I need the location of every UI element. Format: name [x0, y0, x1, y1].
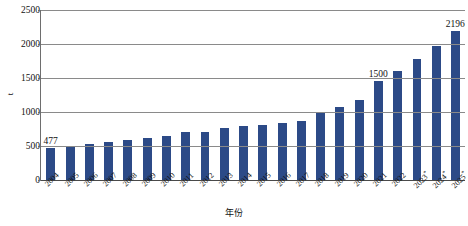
y-axis-tick-label: 2500 — [6, 5, 40, 15]
y-axis-tick-label: 0 — [6, 175, 40, 185]
bar-chart: t 05001000150020002500 47715002196 20042… — [0, 0, 468, 226]
bar[interactable] — [374, 81, 383, 180]
y-axis-tickmark — [38, 146, 41, 147]
y-axis-tick-label: 500 — [6, 141, 40, 151]
bar[interactable] — [335, 107, 344, 180]
y-axis-tick-label: 2000 — [6, 39, 40, 49]
gridline — [41, 10, 465, 11]
bar-value-label: 477 — [38, 136, 64, 146]
bar-series: 47715002196 — [41, 10, 465, 180]
y-axis-tick-labels: 05001000150020002500 — [0, 0, 40, 226]
gridline — [41, 112, 465, 113]
plot-area: 47715002196 — [40, 10, 464, 180]
y-axis-tickmark — [38, 10, 41, 11]
y-axis-tickmark — [38, 112, 41, 113]
bar[interactable] — [432, 46, 441, 180]
bar[interactable] — [393, 71, 402, 180]
y-axis-tickmark — [38, 44, 41, 45]
gridline — [41, 78, 465, 79]
gridline — [41, 44, 465, 45]
x-axis-title: 年份 — [0, 206, 468, 219]
y-axis-tick-label: 1500 — [6, 73, 40, 83]
bar-value-label: 2196 — [442, 19, 468, 29]
y-axis-tickmark — [38, 180, 41, 181]
bar[interactable] — [451, 31, 460, 180]
gridline — [41, 146, 465, 147]
y-axis-tick-label: 1000 — [6, 107, 40, 117]
y-axis-tickmark — [38, 78, 41, 79]
